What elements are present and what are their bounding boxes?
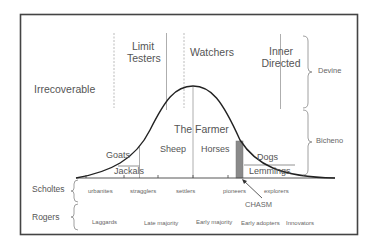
chasm-arrow — [244, 181, 262, 198]
label-jackals: Jackals — [114, 166, 144, 176]
rogers-laggards: Laggards — [92, 219, 117, 226]
rogers-innovators: Innovators — [286, 220, 314, 227]
label-watchers: Watchers — [190, 46, 234, 58]
label-irrecoverable: Irrecoverable — [34, 83, 95, 95]
scholtes-urbanites: urbanites — [88, 188, 113, 195]
label-inner-directed: Inner Directed — [257, 45, 305, 69]
scholtes-stragglers: stragglers — [130, 188, 156, 195]
label-limit-testers: Limit Testers — [127, 40, 159, 64]
label-lemmings: Lemmings — [249, 166, 291, 176]
label-sheep: Sheep — [160, 144, 186, 154]
rogers-late-majority: Late majority — [144, 220, 178, 227]
label-goats: Goats — [106, 150, 130, 160]
scholtes-explorers: explorers — [264, 188, 289, 195]
label-bicheno: Bicheno — [316, 137, 343, 146]
scholtes-settlers: settlers — [176, 188, 195, 195]
label-dogs: Dogs — [257, 152, 278, 162]
label-the-farmer: The Farmer — [174, 123, 229, 135]
label-devine: Devine — [318, 67, 341, 76]
label-rogers: Rogers — [32, 213, 59, 223]
rogers-early-majority: Early majority — [196, 219, 232, 226]
rogers-brace — [71, 204, 78, 230]
label-directed: Directed — [257, 57, 305, 69]
label-limit: Limit — [127, 40, 159, 52]
scholtes-brace — [71, 180, 78, 202]
label-chasm: CHASM — [245, 201, 272, 210]
chasm-bar — [236, 141, 243, 178]
scholtes-pioneers: pioneers — [223, 188, 246, 195]
label-scholtes: Scholtes — [32, 185, 65, 195]
label-inner: Inner — [257, 45, 305, 57]
label-testers: Testers — [127, 52, 159, 64]
label-horses: Horses — [201, 144, 230, 154]
adoption-curve-diagram: Irrecoverable Limit Testers Watchers Inn… — [0, 0, 377, 249]
rogers-early-adopters: Early adopters — [241, 220, 280, 227]
bicheno-brace — [303, 110, 312, 175]
